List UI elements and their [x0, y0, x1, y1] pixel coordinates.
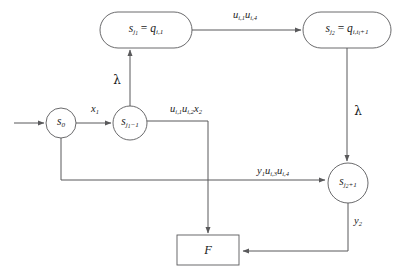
edge-label-lambda-up: λ [113, 74, 121, 87]
diagram-canvas: s0 sj1−1 sj1 = qi,1 sj2 = qi,ti+1 sj2+1 … [0, 0, 394, 276]
edge-label-x1: x1 [91, 104, 99, 115]
edge-label-y2: y2 [354, 216, 362, 227]
node-label-sj2: sj2 = qi,ti+1 [326, 23, 369, 37]
edge-sj2p1-to-F [243, 203, 348, 251]
edge-sj1m1-to-F [147, 121, 208, 233]
edge-label-y1-ui3-ui4: y1ui,3ui,4 [257, 166, 289, 177]
node-label-sj2-plus-1: sj2+1 [339, 176, 357, 190]
edge-label-lambda-down: λ [354, 105, 362, 118]
node-label-s0: s0 [57, 116, 65, 129]
node-label-sj1-minus-1: sj1−1 [121, 116, 139, 130]
diagram-svg [0, 0, 394, 276]
edge-label-ui1-ui4: ui,1ui,4 [233, 10, 257, 21]
edge-label-ui1-ui2-x2: ui,1ui,2x2 [170, 104, 202, 115]
node-label-sj1: sj1 = qi,1 [129, 23, 164, 37]
node-label-f-box: F [204, 244, 212, 257]
